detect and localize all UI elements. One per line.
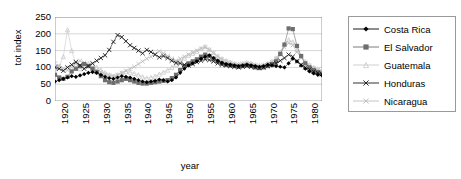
legend-item-guatemala[interactable]: Guatemala: [351, 56, 453, 74]
x-tick-label: 1955: [205, 103, 216, 124]
legend-label: Nicaragua: [381, 96, 427, 107]
y-tick-label: 50: [21, 79, 51, 88]
series-el-salvador: [55, 26, 322, 85]
y-tick-label: 150: [21, 46, 51, 55]
legend-item-costa-rica[interactable]: Costa Rica: [351, 20, 453, 38]
plot-area: [55, 17, 322, 101]
x-tick-label: 1960: [226, 103, 237, 124]
x-tick-label: 1980: [309, 103, 320, 124]
y-tick-label: 200: [21, 29, 51, 38]
legend-item-nicaragua[interactable]: Nicaragua: [351, 92, 453, 110]
legend-marker-icon: [351, 58, 381, 72]
legend-marker-icon: [351, 76, 381, 90]
y-tick-label: 100: [21, 62, 51, 71]
x-tick-label: 1925: [80, 103, 91, 124]
x-tick-label: 1965: [247, 103, 258, 124]
x-tick-label: 1945: [163, 103, 174, 124]
y-tick-label: 250: [21, 12, 51, 21]
legend-item-el-salvador[interactable]: El Salvador: [351, 38, 453, 56]
x-tick-label: 1975: [288, 103, 299, 124]
legend-label: Guatemala: [381, 60, 430, 71]
legend-label: Honduras: [381, 78, 425, 89]
legend-label: Costa Rica: [381, 24, 430, 35]
legend: Costa RicaEl SalvadorGuatemalaHondurasNi…: [348, 16, 456, 112]
x-tick-label: 1950: [184, 103, 195, 124]
legend-label: El Salvador: [381, 42, 433, 53]
legend-marker-icon: [351, 22, 381, 36]
x-tick-label: 1940: [142, 103, 153, 124]
chart-container: tot index year 250200150100500 192019251…: [0, 0, 461, 179]
x-axis-title: year: [110, 160, 270, 171]
x-tick-label: 1920: [59, 103, 70, 124]
x-tick-label: 1930: [101, 103, 112, 124]
legend-marker-icon: [351, 94, 381, 108]
legend-item-honduras[interactable]: Honduras: [351, 74, 453, 92]
x-axis-ticks: 1920192519301935194019451950195519601965…: [55, 103, 322, 155]
plot-svg: [55, 17, 322, 101]
y-axis-ticks: 250200150100500: [19, 0, 51, 118]
y-tick-label: 0: [21, 96, 51, 105]
x-tick-label: 1935: [122, 103, 133, 124]
legend-marker-icon: [351, 40, 381, 54]
x-tick-label: 1970: [268, 103, 279, 124]
